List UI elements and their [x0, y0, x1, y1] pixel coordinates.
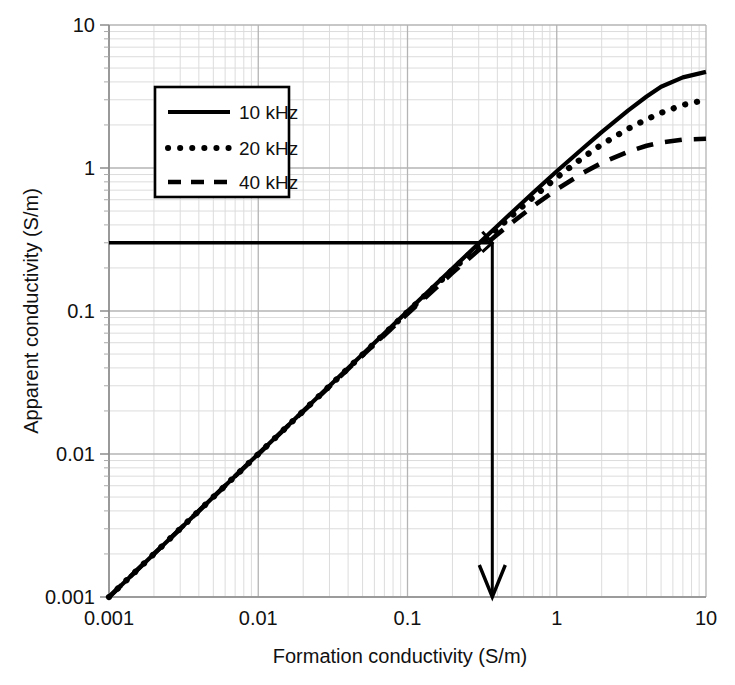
y-tick-label: 1	[84, 157, 95, 179]
y-tick-label: 10	[73, 14, 95, 36]
conductivity-log-log-plot: 0.0010.010.1110 0.0010.010.1110 10 kHz20…	[0, 0, 735, 685]
x-tick-label: 0.001	[84, 607, 134, 629]
legend-label-10-khz: 10 kHz	[239, 102, 298, 123]
x-tick-label: 1	[551, 607, 562, 629]
y-axis-title: Apparent conductivity (S/m)	[20, 188, 42, 434]
y-tick-label: 0.001	[45, 586, 95, 608]
y-tick-label: 0.1	[67, 300, 95, 322]
chart-legend: 10 kHz20 kHz40 kHz	[155, 87, 298, 197]
legend-label-20-khz: 20 kHz	[239, 138, 298, 159]
chart-figure: 0.0010.010.1110 0.0010.010.1110 10 kHz20…	[0, 0, 735, 685]
x-tick-label: 0.01	[239, 607, 278, 629]
y-tick-label: 0.01	[56, 443, 95, 465]
legend-label-40-khz: 40 kHz	[239, 172, 298, 193]
x-tick-label: 10	[695, 607, 717, 629]
x-axis-title: Formation conductivity (S/m)	[273, 645, 528, 667]
x-tick-label: 0.1	[394, 607, 422, 629]
